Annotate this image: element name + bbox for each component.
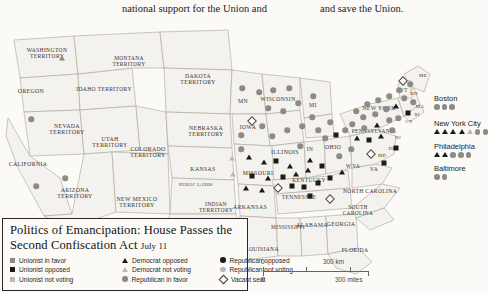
map-marker-tr[interactable] (393, 104, 399, 109)
city-symbol-ci (466, 152, 472, 158)
map-marker-ci[interactable] (395, 115, 401, 121)
map-marker-ci[interactable] (286, 85, 292, 91)
map-marker-sq[interactable] (302, 185, 307, 190)
map-marker-ci[interactable] (322, 135, 328, 141)
map-marker-tr[interactable] (287, 164, 293, 169)
map-marker-ci[interactable] (238, 132, 244, 138)
map-marker-ci[interactable] (360, 114, 366, 120)
map-marker-sq[interactable] (394, 146, 399, 151)
map-marker-ci[interactable] (62, 175, 68, 181)
map-marker-ci[interactable] (259, 123, 265, 129)
scale-km-max: 300 km (323, 258, 344, 265)
map-marker-tr[interactable] (293, 172, 299, 177)
city-symbol-tr (459, 129, 465, 134)
map-marker-sq[interactable] (382, 161, 387, 166)
map-marker-ci[interactable] (269, 133, 275, 139)
map-marker-tr[interactable] (354, 136, 360, 141)
map-marker-ci[interactable] (295, 100, 301, 106)
city-symbol-row[interactable] (434, 129, 488, 135)
map-marker-ci[interactable] (327, 119, 333, 125)
map-marker-ci[interactable] (389, 127, 395, 133)
legend-item-label: Unionist in favor (19, 257, 66, 264)
map-marker-ci[interactable] (372, 111, 378, 117)
map-marker-tr[interactable] (230, 172, 236, 177)
city-symbol-tr (450, 129, 456, 134)
map-marker-ci[interactable] (284, 127, 290, 133)
map-marker-ci[interactable] (270, 87, 276, 93)
map-marker-tr[interactable] (246, 155, 252, 160)
map-marker-ci[interactable] (396, 87, 402, 93)
map-marker-ci[interactable] (364, 101, 370, 107)
map-marker-sq[interactable] (406, 111, 411, 116)
map-marker-ci[interactable] (315, 127, 321, 133)
map-marker-sq[interactable] (250, 174, 255, 179)
legend-item-label: Democrat not voting (132, 266, 191, 273)
map-marker-ci[interactable] (265, 105, 271, 111)
map-marker-ci[interactable] (361, 125, 367, 131)
map-marker-ci[interactable] (28, 116, 34, 122)
map-marker-ci[interactable] (407, 81, 413, 87)
map-marker-tr[interactable] (59, 56, 65, 61)
legend-item: Vacant seat (220, 276, 293, 283)
map-marker-ci[interactable] (336, 153, 342, 159)
map-marker-tr[interactable] (307, 158, 313, 163)
legend-items: Unionist in favorDemocrat opposedRepubli… (10, 257, 241, 283)
map-marker-ci[interactable] (297, 143, 303, 149)
map-marker-sq[interactable] (290, 184, 295, 189)
map-marker-ci[interactable] (239, 85, 245, 91)
city-symbol-row[interactable] (434, 104, 455, 110)
map-marker-tr[interactable] (378, 134, 384, 139)
map-marker-tr[interactable] (374, 123, 380, 128)
map-marker-tr[interactable] (229, 156, 235, 161)
map-marker-ci[interactable] (348, 146, 354, 152)
legend-symbol-square-dark (10, 267, 15, 272)
map-marker-ci[interactable] (383, 106, 389, 112)
map-marker-sq[interactable] (320, 164, 325, 169)
map-marker-ci[interactable] (386, 93, 392, 99)
map-marker-sq[interactable] (308, 194, 313, 199)
map-marker-ci[interactable] (238, 146, 244, 152)
map-marker-tr[interactable] (265, 176, 271, 181)
map-marker-sq[interactable] (367, 138, 372, 143)
map-marker-tr[interactable] (305, 168, 311, 173)
map-marker-tr[interactable] (261, 160, 267, 165)
city-symbol-ci (483, 129, 488, 135)
map-marker-ci[interactable] (401, 95, 407, 101)
map-marker-tr[interactable] (339, 170, 345, 175)
legend-item: Unionist not voting (10, 276, 122, 283)
city-symbol-row[interactable] (434, 174, 447, 180)
legend-item-label: Republican opposed (230, 257, 290, 264)
city-label: Baltimore (434, 164, 466, 173)
legend-title: Politics of Emancipation: House Passes t… (10, 223, 241, 253)
map-marker-ci[interactable] (375, 97, 381, 103)
legend-symbol-triangle-dark (122, 258, 128, 263)
map-marker-ci[interactable] (353, 108, 359, 114)
map-marker-ci[interactable] (342, 127, 348, 133)
map-marker-ci[interactable] (310, 93, 316, 99)
map-marker-ci[interactable] (410, 99, 416, 105)
map-marker-ci[interactable] (386, 117, 392, 123)
city-symbol-ci (434, 104, 440, 110)
map-marker-ci[interactable] (349, 121, 355, 127)
map-marker-sq[interactable] (328, 176, 333, 181)
map-marker-sq[interactable] (334, 133, 339, 138)
map-marker-ci[interactable] (299, 123, 305, 129)
map-marker-ci[interactable] (33, 183, 39, 189)
map-marker-ci[interactable] (256, 89, 262, 95)
map-marker-sq[interactable] (316, 181, 321, 186)
legend-date: July 11 (141, 241, 168, 251)
city-symbol-tr (467, 129, 473, 134)
map-marker-tr[interactable] (243, 186, 249, 191)
legend-title-line1: Politics of Emancipation: House Passes t… (10, 223, 232, 237)
map-marker-sq[interactable] (281, 175, 286, 180)
scale-km-zero: 0 (261, 258, 265, 265)
city-symbol-row[interactable] (434, 152, 471, 158)
legend-symbol-circle-dark (220, 257, 226, 263)
city-label: Philadelphia (434, 142, 475, 151)
map-marker-ci[interactable] (309, 114, 315, 120)
map-marker-tr[interactable] (259, 188, 265, 193)
city-symbol-ci (442, 174, 448, 180)
map-marker-sq[interactable] (274, 159, 279, 164)
legend-symbol-circle-mid (122, 276, 128, 282)
map-marker-ci[interactable] (280, 108, 286, 114)
